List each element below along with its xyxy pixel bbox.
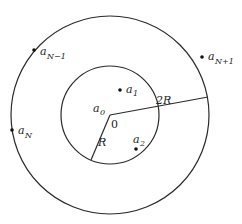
label-a2-sub: 2 xyxy=(139,139,145,148)
point-a1-dot xyxy=(118,88,122,92)
label-a1-sub: 1 xyxy=(133,89,138,98)
point-aN-dot xyxy=(10,128,14,132)
label-R: R xyxy=(97,136,106,149)
point-aN-1-dot xyxy=(32,48,36,52)
label-a0-sub: 0 xyxy=(100,108,105,117)
label-aN-1: a xyxy=(40,45,47,58)
label-aN-sub: N xyxy=(24,131,33,140)
label-a2: a xyxy=(133,133,140,146)
label-a1: a xyxy=(126,83,133,96)
label-a0: a xyxy=(93,102,100,115)
label-origin-zero: 0 xyxy=(111,118,118,131)
label-aN+1-sub: N+1 xyxy=(214,57,234,66)
label-aN-1-sub: N−1 xyxy=(46,52,66,61)
label-aN: a xyxy=(18,124,25,137)
point-a2-dot xyxy=(134,147,138,151)
point-aN+1-dot xyxy=(200,55,204,59)
label-2R: 2R xyxy=(155,94,171,107)
label-aN+1: a xyxy=(208,50,215,63)
concentric-circles-diagram: a 0 0 R 2R a 1 a 2 a N−1 a N a N+1 xyxy=(0,0,242,224)
